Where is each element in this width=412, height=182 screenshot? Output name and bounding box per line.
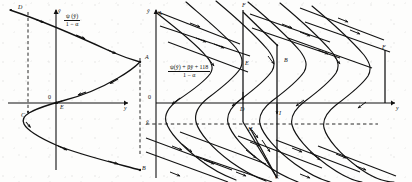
left-formula-denominator: 1 − α bbox=[64, 21, 80, 28]
right-point-label-f-top: F bbox=[242, 2, 246, 8]
right-y-axis-label: ŷ bbox=[147, 8, 150, 14]
left-point-label-c: C bbox=[21, 112, 25, 118]
right-inflow-lines bbox=[146, 8, 396, 182]
right-point-label-a: A bbox=[158, 10, 162, 16]
left-point-markers bbox=[10, 9, 141, 171]
right-point-label-h: H bbox=[248, 126, 252, 132]
right-flow-arrows bbox=[170, 18, 366, 178]
left-dashed-guides bbox=[28, 12, 140, 156]
right-trajectory-family bbox=[158, 1, 394, 182]
left-formula: ψ (ŷ) 1 − α bbox=[64, 13, 80, 28]
right-origin-label: 0 bbox=[148, 94, 151, 100]
left-point-label-e: E bbox=[60, 104, 64, 110]
right-formula-denominator: 1 − α bbox=[168, 72, 210, 79]
right-point-label-e: E bbox=[245, 60, 249, 66]
left-y-axis-label: ŷ bbox=[58, 8, 61, 14]
left-characteristic-curve bbox=[10, 10, 140, 170]
right-axes bbox=[154, 9, 395, 178]
left-x-axis-label: y bbox=[124, 105, 127, 111]
left-point-label-a: A bbox=[145, 54, 149, 60]
right-formula-numerator: ψ(ŷ) + βŷ + 118 bbox=[168, 64, 210, 72]
right-point-label-d: D bbox=[240, 106, 244, 112]
figure-canvas: ψ (ŷ) 1 − α ŷ y 0 D A E C B ψ(ŷ) + βŷ + … bbox=[0, 0, 412, 182]
right-point-label-f-right: F bbox=[382, 44, 386, 50]
left-point-label-b: B bbox=[142, 165, 146, 171]
right-point-label-i: I bbox=[279, 110, 281, 116]
right-point-label-b: B bbox=[284, 57, 288, 63]
left-formula-numerator: ψ (ŷ) bbox=[64, 13, 80, 21]
right-formula: ψ(ŷ) + βŷ + 118 1 − α bbox=[168, 64, 210, 79]
right-dashed-level-label: ŷ bbox=[146, 119, 149, 125]
left-flow-arrows bbox=[26, 20, 118, 164]
left-origin-label: 0 bbox=[48, 94, 51, 100]
right-x-axis-label: y bbox=[396, 105, 399, 111]
right-point-label-c: C bbox=[275, 174, 279, 180]
left-point-label-d: D bbox=[18, 4, 22, 10]
figure-vector-layer bbox=[0, 0, 412, 182]
